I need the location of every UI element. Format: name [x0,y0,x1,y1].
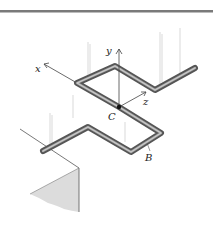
center-point-c [117,105,121,109]
support-wall [20,129,79,212]
y-axis [116,49,122,107]
z-axis-label: z [142,96,149,107]
y-axis-label: y [105,45,112,56]
x-axis-label: x [35,63,41,74]
top-rule [0,10,213,13]
point-b-label: B [144,152,152,163]
x-axis [44,63,77,83]
rod-diagram: x y z C B [0,0,213,225]
z-axis [119,92,146,107]
center-label: C [108,111,116,122]
